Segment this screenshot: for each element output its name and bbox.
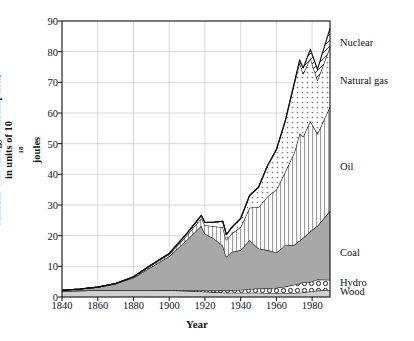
stacked-areas [62,28,330,297]
plot-area [0,0,414,341]
chart-figure: Annual U.S. energy consumption, in units… [0,0,414,341]
